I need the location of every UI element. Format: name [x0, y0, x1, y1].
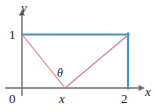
- x-axis-label: x: [145, 85, 151, 98]
- sight-lines-group: [23, 35, 129, 88]
- right-sight-line: [65, 35, 128, 88]
- geometry-figure: y x 0 1 x 2 θ: [0, 0, 155, 112]
- x-tick-label-2: 2: [121, 92, 128, 105]
- x-tick-label-x: x: [59, 92, 65, 105]
- origin-label: 0: [9, 92, 16, 105]
- y-axis-label: y: [21, 1, 27, 14]
- figure-canvas: [0, 0, 155, 112]
- axis-group: [5, 9, 145, 96]
- left-sight-line: [23, 35, 66, 88]
- rectangle-outline-group: [22, 34, 129, 89]
- y-tick-label-1: 1: [9, 28, 16, 41]
- angle-theta-label: θ: [57, 67, 63, 79]
